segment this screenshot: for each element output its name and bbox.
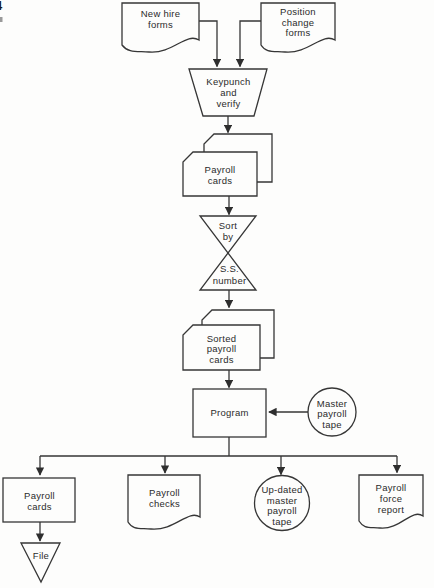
- node-label-line: Master: [317, 398, 348, 409]
- edge-program-distribution-line: [40, 437, 397, 456]
- node-label-line: cards: [208, 175, 232, 186]
- node-label-line: New hire: [141, 8, 181, 19]
- node-file: File: [21, 543, 60, 582]
- node-label-line: Program: [210, 407, 248, 418]
- edge-new-hire-to-keypunch: [199, 21, 217, 67]
- node-updated-master-payroll-tape: Up-dated master payroll tape: [255, 476, 310, 531]
- node-label-line: Payroll: [376, 482, 407, 493]
- page-corner-fragment: 4: [0, 0, 3, 22]
- node-master-payroll-tape: Master payroll tape: [308, 388, 356, 436]
- node-label-line: cards: [27, 501, 51, 512]
- node-label-line: Up-dated: [261, 484, 302, 495]
- node-position-change-forms: Position change forms: [261, 3, 335, 52]
- node-sort: Sort by S.S. number: [200, 216, 256, 290]
- node-label-line: tape: [322, 419, 342, 430]
- node-label-line: force: [380, 493, 402, 504]
- node-label-line: checks: [149, 498, 180, 509]
- node-label-line: by: [223, 231, 234, 242]
- node-label-line: Payroll: [24, 490, 55, 501]
- node-label-line: and: [220, 87, 237, 98]
- node-label-line: payroll: [207, 343, 237, 354]
- node-label-line: S.S.: [220, 263, 239, 274]
- node-label-line: Sorted: [207, 333, 237, 344]
- node-label-line: Keypunch: [206, 76, 250, 87]
- node-label-line: cards: [209, 354, 233, 365]
- payroll-flowchart-canvas: 4 New hire forms Position change forms K…: [0, 0, 434, 588]
- page-edge-mark: [0, 17, 3, 22]
- node-label-line: change: [282, 17, 315, 28]
- offline-storage-shape: [21, 543, 60, 582]
- node-label-line: report: [378, 504, 404, 515]
- node-label-line: Position: [280, 6, 316, 17]
- node-sorted-payroll-cards-stack: Sorted payroll cards: [183, 310, 274, 370]
- node-label-line: File: [33, 550, 49, 561]
- node-label-line: number: [213, 275, 247, 286]
- node-payroll-cards-output: Payroll cards: [3, 478, 75, 522]
- node-label-line: Payroll: [205, 164, 236, 175]
- node-label-line: tape: [272, 516, 292, 527]
- node-keypunch-and-verify: Keypunch and verify: [189, 69, 267, 116]
- node-payroll-checks: Payroll checks: [128, 475, 200, 529]
- node-label-line: payroll: [267, 505, 297, 516]
- edge-position-change-to-keypunch: [240, 21, 261, 67]
- node-payroll-cards-stack: Payroll cards: [183, 134, 272, 196]
- node-label-line: forms: [286, 27, 311, 38]
- page-number-fragment: 4: [0, 0, 3, 13]
- node-label-line: Payroll: [149, 487, 180, 498]
- node-label-line: Sort: [219, 220, 238, 231]
- node-payroll-force-report: Payroll force report: [359, 475, 423, 528]
- flowchart-page: 4 New hire forms Position change forms K…: [0, 0, 434, 588]
- node-label-line: payroll: [317, 408, 347, 419]
- node-label-line: verify: [216, 98, 240, 109]
- node-program: Program: [193, 389, 266, 437]
- node-label-line: forms: [148, 19, 173, 30]
- node-label-line: master: [267, 495, 298, 506]
- node-new-hire-forms: New hire forms: [122, 3, 199, 52]
